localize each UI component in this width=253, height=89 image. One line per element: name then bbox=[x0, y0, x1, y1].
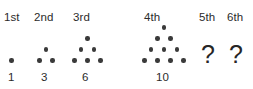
dot-row bbox=[5, 55, 18, 66]
dot bbox=[85, 36, 89, 40]
dot-row bbox=[33, 55, 59, 66]
dot-row bbox=[68, 55, 107, 66]
dot bbox=[181, 58, 185, 62]
dot bbox=[85, 58, 89, 62]
ordinal-label-6th: 6th bbox=[227, 11, 243, 24]
dot bbox=[37, 58, 41, 62]
dot bbox=[79, 47, 83, 51]
triangular-number-sequence-figure: 1st 1 2nd 3 3rd 6 4th bbox=[0, 0, 253, 89]
dot-row bbox=[75, 44, 101, 55]
ordinal-label-5th: 5th bbox=[199, 11, 215, 24]
dot bbox=[9, 58, 13, 62]
dot-figure-3rd bbox=[67, 14, 108, 66]
dot bbox=[72, 58, 76, 62]
dot-row bbox=[151, 33, 177, 44]
dot bbox=[155, 36, 159, 40]
dot bbox=[44, 47, 48, 51]
dot-row bbox=[138, 55, 190, 66]
dot-row bbox=[145, 44, 184, 55]
question-mark-5th: ? bbox=[201, 42, 215, 67]
dot-figure-4th bbox=[137, 14, 191, 66]
dot-row bbox=[158, 22, 171, 33]
dot bbox=[50, 58, 54, 62]
dot bbox=[175, 47, 179, 51]
dot-figure-1st bbox=[2, 14, 21, 66]
count-label-3rd: 6 bbox=[82, 71, 88, 84]
count-label-4th: 10 bbox=[156, 71, 169, 84]
dot bbox=[155, 58, 159, 62]
dot-figure-2nd bbox=[32, 14, 60, 66]
dot bbox=[168, 36, 172, 40]
dot-row bbox=[81, 33, 94, 44]
dot bbox=[168, 58, 172, 62]
dot bbox=[162, 25, 166, 29]
dot bbox=[98, 58, 102, 62]
dot bbox=[149, 47, 153, 51]
count-label-1st: 1 bbox=[8, 71, 14, 84]
dot bbox=[142, 58, 146, 62]
dot bbox=[162, 47, 166, 51]
question-mark-6th: ? bbox=[229, 42, 243, 67]
dot-row bbox=[40, 44, 53, 55]
dot bbox=[92, 47, 96, 51]
count-label-2nd: 3 bbox=[41, 71, 47, 84]
